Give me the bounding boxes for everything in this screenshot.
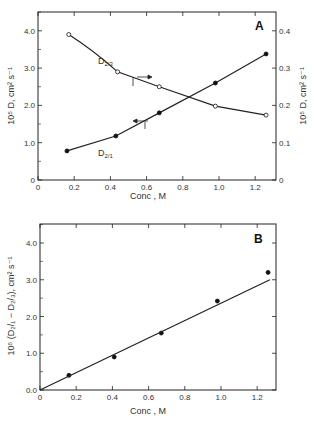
open-circle-marker — [264, 113, 268, 117]
series-a — [65, 33, 268, 153]
y-axis-label-a: 10⁵ D, cm² s⁻¹ — [6, 67, 16, 125]
x-tick-label: 1.2 — [252, 393, 264, 402]
y-right-tick-label: 0.3 — [279, 64, 291, 73]
y-tick-label: 0.0 — [26, 386, 38, 395]
y-right-tick-label: 0 — [279, 176, 284, 185]
open-circle-marker — [116, 70, 120, 74]
filled-circle-marker — [264, 52, 268, 56]
y-axis-ticks-b: 0.01.02.03.04.0 — [26, 225, 276, 395]
x-tick-label: 1.0 — [213, 183, 225, 192]
x-tick-label: 0 — [36, 183, 41, 192]
x-tick-label: 0 — [38, 393, 43, 402]
filled-circle-marker — [215, 299, 219, 303]
y-tick-label: 4.0 — [26, 239, 38, 248]
chart-panel-a: 00.20.40.60.81.01.2 01.02.03.04.0 00.10.… — [6, 12, 308, 201]
y-right-tick-label: 0.2 — [279, 101, 291, 110]
y-right-tick-label: 0.4 — [279, 27, 291, 36]
x-tick-label: 0.6 — [143, 393, 155, 402]
x-tick-label: 1.2 — [250, 183, 262, 192]
filled-circle-marker — [266, 270, 270, 274]
filled-circle-marker — [65, 149, 69, 153]
y-tick-label: 3.0 — [26, 276, 38, 285]
x-tick-label: 1.0 — [215, 393, 227, 402]
x-tick-label: 0.8 — [179, 393, 191, 402]
series-b — [40, 270, 270, 390]
fit-line — [40, 280, 270, 390]
series-line — [69, 35, 266, 116]
filled-circle-marker — [213, 81, 217, 85]
filled-circle-marker — [114, 134, 118, 138]
series-label-d23: D2/3 — [98, 56, 114, 67]
x-axis-label-a: Conc , M — [130, 191, 166, 201]
open-circle-marker — [213, 104, 217, 108]
filled-circle-marker — [157, 111, 161, 115]
x-tick-label: 0.2 — [69, 183, 81, 192]
y-tick-label: 1.0 — [26, 349, 38, 358]
y-axis-label-b: 10⁵ (D₂/₁ − D₂/₃), cm² s⁻¹ — [6, 256, 16, 355]
y-tick-label: 2.0 — [26, 313, 38, 322]
open-circle-marker — [67, 33, 71, 37]
y-tick-label: 2.0 — [24, 101, 36, 110]
plot-frame-b — [40, 224, 276, 390]
x-axis-label-b: Conc , M — [130, 406, 166, 416]
y-tick-label: 0 — [31, 176, 36, 185]
open-circle-marker — [157, 85, 161, 89]
series-label-d21: D2/1 — [98, 148, 114, 159]
panel-label-a: A — [255, 19, 264, 33]
x-axis-ticks-a: 00.20.40.60.81.01.2 — [36, 12, 262, 192]
chart-panel-b: 00.20.40.60.81.01.2 0.01.02.03.04.0 B Co… — [6, 224, 276, 416]
y-tick-label: 3.0 — [24, 64, 36, 73]
series-line — [67, 54, 266, 151]
y-axis-right-ticks-a: 00.10.20.30.4 — [279, 27, 291, 185]
x-tick-label: 0.8 — [177, 183, 189, 192]
x-tick-label: 0.4 — [107, 393, 119, 402]
y-axis-right-label-a: 10⁵ D, cm² s⁻¹ — [298, 67, 308, 125]
y-right-tick-label: 0.1 — [279, 139, 291, 148]
y-tick-label: 1.0 — [24, 139, 36, 148]
y-axis-ticks-a: 01.02.03.04.0 — [24, 12, 276, 185]
figure: 00.20.40.60.81.01.2 01.02.03.04.0 00.10.… — [0, 0, 314, 425]
panel-label-b: B — [254, 232, 263, 246]
x-tick-label: 0.2 — [71, 393, 83, 402]
y-tick-label: 4.0 — [24, 27, 36, 36]
x-tick-label: 0.4 — [105, 183, 117, 192]
